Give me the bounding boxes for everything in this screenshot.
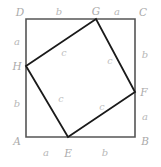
segment-label-right-b: b — [142, 50, 148, 60]
vertex-label-c: C — [139, 7, 147, 17]
segment-label-top-b: b — [56, 7, 62, 17]
segment-label-right-a: a — [142, 112, 148, 122]
segment-label-top-a: a — [114, 7, 120, 17]
inner-side-label-top-right: c — [107, 56, 112, 66]
vertex-label-a: A — [13, 136, 21, 146]
vertex-label-e: E — [64, 148, 72, 158]
inner-side-label-bottom-right: c — [99, 102, 104, 112]
vertex-label-h: H — [12, 61, 21, 71]
outer-square-abcd — [26, 19, 135, 137]
segment-label-bottom-b: b — [102, 148, 108, 158]
segment-label-bottom-a: a — [43, 148, 49, 158]
vertex-label-g: G — [92, 6, 100, 16]
segment-label-left-a: a — [14, 37, 20, 47]
figure-canvas — [0, 0, 161, 167]
inner-square-efgh — [26, 19, 135, 137]
vertex-label-b: B — [141, 136, 149, 146]
inner-side-label-top-left: c — [61, 48, 66, 58]
vertex-label-f: F — [140, 87, 147, 97]
geometry-figure: D G C H F A E B b a a b b a a b c c c c — [0, 0, 161, 167]
vertex-label-d: D — [16, 7, 24, 17]
inner-side-label-bottom-left: c — [58, 94, 63, 104]
segment-label-left-b: b — [14, 99, 20, 109]
